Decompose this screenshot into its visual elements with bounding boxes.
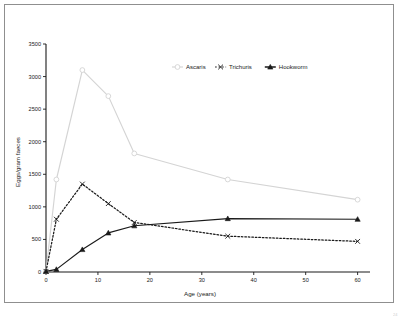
x-axis-title: Age (years) <box>184 290 216 297</box>
y-tick-label: 1000 <box>29 204 41 210</box>
data-point-marker <box>132 151 137 156</box>
y-tick-label: 2000 <box>29 139 41 145</box>
data-series-trichuris <box>44 182 360 274</box>
x-tick-label: 30 <box>199 277 205 283</box>
x-tick-label: 50 <box>303 277 309 283</box>
data-series-group <box>43 68 360 274</box>
chart-legend: AscarisTrichurisHookworm <box>172 64 307 70</box>
legend-label-hookworm: Hookworm <box>279 64 308 70</box>
legend-label-trichuris: Trichuris <box>229 64 252 70</box>
series-line <box>46 184 358 271</box>
svg-text:24: 24 <box>393 312 398 317</box>
data-point-marker <box>106 94 111 99</box>
x-tick-label: 40 <box>251 277 257 283</box>
y-tick-label: 3500 <box>29 41 41 47</box>
x-tick-label: 10 <box>95 277 101 283</box>
data-point-marker <box>355 239 360 244</box>
y-tick-label: 2500 <box>29 106 41 112</box>
data-point-marker <box>106 201 111 206</box>
y-axis-title: Eggs/gram faeces <box>14 137 21 187</box>
data-point-marker <box>80 182 85 187</box>
x-axis: 0102030405060 <box>44 272 370 283</box>
page-corner-artifact: 24 <box>392 311 402 317</box>
data-point-marker <box>54 217 59 222</box>
data-point-marker <box>80 68 85 73</box>
data-series-hookworm <box>43 216 360 273</box>
data-series-ascaris <box>44 68 360 274</box>
y-axis: 0500100015002000250030003500 <box>29 41 46 275</box>
x-tick-label: 60 <box>354 277 360 283</box>
legend-label-ascaris: Ascaris <box>186 64 206 70</box>
series-line <box>46 219 358 272</box>
chart-plot-area: 0500100015002000250030003500 01020304050… <box>0 0 405 318</box>
y-tick-label: 0 <box>38 269 41 275</box>
data-point-marker <box>355 197 360 202</box>
figure-container: 0500100015002000250030003500 01020304050… <box>0 0 405 318</box>
data-point-marker <box>225 177 230 182</box>
data-point-marker <box>175 65 180 70</box>
series-line <box>46 70 358 271</box>
x-tick-label: 0 <box>44 277 47 283</box>
y-tick-label: 1500 <box>29 171 41 177</box>
data-point-marker <box>54 177 59 182</box>
x-tick-label: 20 <box>147 277 153 283</box>
y-tick-label: 3000 <box>29 74 41 80</box>
y-tick-label: 500 <box>32 236 41 242</box>
data-point-marker <box>80 247 85 252</box>
